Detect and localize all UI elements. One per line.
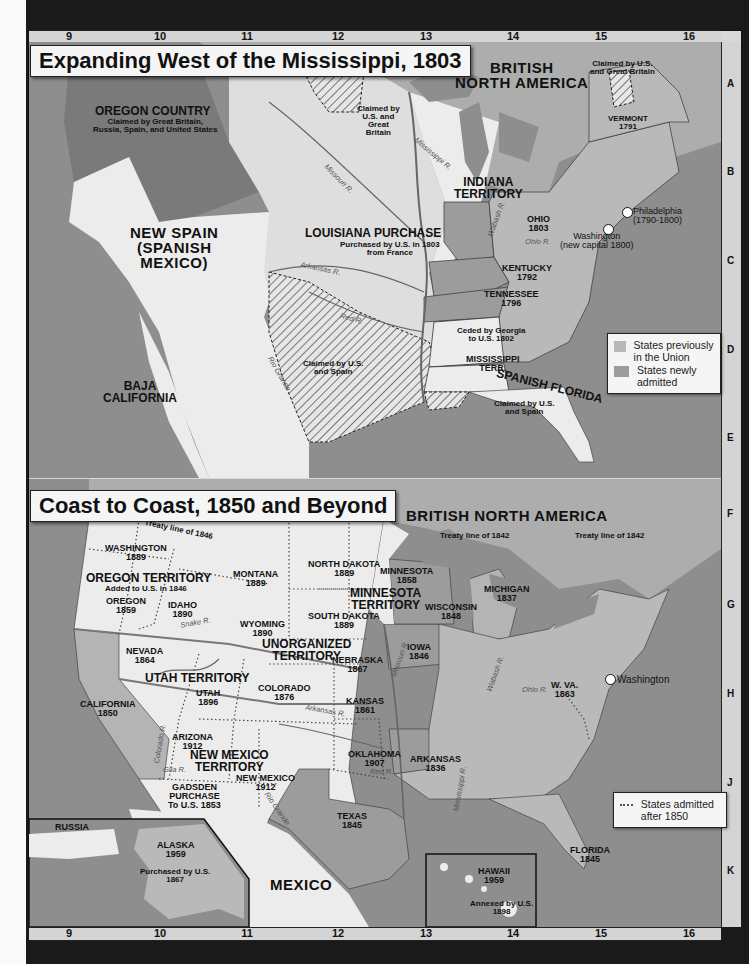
label-claim-us-gb-east: Claimed by U.S.and Great Britain xyxy=(590,60,655,76)
grid-row-label: D xyxy=(727,344,734,355)
label-alaska: ALASKA1959 xyxy=(157,841,195,859)
label-ohio: OHIO1803 xyxy=(527,215,550,233)
label-claim-us-gb-west: Claimed byU.S. andGreatBritain xyxy=(357,105,400,137)
label-washington-state: WASHINGTON1889 xyxy=(105,544,167,562)
label-hawaii: HAWAII1959 xyxy=(478,867,510,885)
label-idaho: IDAHO1890 xyxy=(168,601,197,619)
label-baja-california: BAJACALIFORNIA xyxy=(103,380,177,404)
page-margin xyxy=(0,0,26,964)
label-kansas: KANSAS1861 xyxy=(346,697,384,715)
swatch-new xyxy=(614,366,629,377)
label-oregon-territory-sub: Added to U.S. in 1846 xyxy=(105,585,187,593)
label-nevada: NEVADA1864 xyxy=(126,647,163,665)
grid-col-label: 10 xyxy=(154,30,166,42)
grid-row-label: C xyxy=(727,255,734,266)
label-claim-us-spain-tx: Claimed by U.S.and Spain xyxy=(303,360,363,376)
label-nebraska: NEBRASKA1867 xyxy=(332,656,383,674)
legend-item-after-1850: States admitted after 1850 xyxy=(620,798,720,822)
label-new-spain: NEW SPAIN(SPANISHMEXICO) xyxy=(130,225,218,270)
washington-marker-icon xyxy=(603,224,614,235)
grid-col-label: 13 xyxy=(420,927,432,939)
label-colorado: COLORADO1876 xyxy=(258,684,311,702)
label-oregon-territory: OREGON TERRITORY xyxy=(86,572,211,584)
label-ceded-by-georgia: Ceded by Georgiato U.S. 1802 xyxy=(457,327,525,343)
grid-col-label: 11 xyxy=(241,927,253,939)
label-vermont: VERMONT1791 xyxy=(608,115,648,131)
washington-dc-marker-icon xyxy=(605,674,616,685)
label-new-mexico: NEW MEXICO1912 xyxy=(236,774,295,792)
label-river: Gila R. xyxy=(163,766,186,774)
label-tennessee: TENNESSEE1796 xyxy=(484,290,539,308)
label-river: Ohio R. xyxy=(525,238,550,246)
grid-col-label: 13 xyxy=(420,30,432,42)
map-1850-title: Coast to Coast, 1850 and Beyond xyxy=(30,490,396,522)
map-1803-title: Expanding West of the Mississippi, 1803 xyxy=(30,45,471,77)
legend-1803: States previously in the Union States ne… xyxy=(607,333,721,394)
label-treaty-1842-a: Treaty line of 1842 xyxy=(440,532,509,540)
label-indiana-territory: INDIANATERRITORY xyxy=(454,176,523,200)
grid-col-label: 16 xyxy=(683,30,695,42)
grid-row-label: G xyxy=(727,599,735,610)
label-treaty-1842-b: Treaty line of 1842 xyxy=(575,532,644,540)
grid-col-label: 12 xyxy=(332,30,344,42)
label-kentucky: KENTUCKY1792 xyxy=(502,264,552,282)
grid-col-label: 14 xyxy=(507,30,519,42)
label-washington-1803: Washington(new capital 1800) xyxy=(560,232,634,250)
label-utah-territory: UTAH TERRITORY xyxy=(145,672,249,684)
label-claim-us-spain-fl: Claimed by U.S.and Spain xyxy=(494,400,554,416)
grid-row-label: K xyxy=(727,865,734,876)
label-north-dakota: NORTH DAKOTA1889 xyxy=(308,560,380,578)
label-minnesota-territory: MINNESOTATERRITORY xyxy=(350,587,421,611)
label-british-north-america: BRITISHNORTH AMERICA xyxy=(455,60,588,90)
label-california: CALIFORNIA1850 xyxy=(80,700,136,718)
label-oregon-country: OREGON COUNTRY xyxy=(95,105,211,117)
legend-item-previous: States previously in the Union xyxy=(614,339,714,363)
label-montana: MONTANA1889 xyxy=(233,570,278,588)
dotted-line-swatch xyxy=(620,804,633,806)
label-louisiana-sub: Purchased by U.S. in 1803from France xyxy=(340,241,440,257)
label-iowa: IOWA1846 xyxy=(407,643,431,661)
grid-row-label: H xyxy=(727,688,734,699)
grid-col-label: 15 xyxy=(595,30,607,42)
label-river: Red R. xyxy=(370,768,393,776)
label-south-dakota: SOUTH DAKOTA1889 xyxy=(308,612,380,630)
label-washington-dc: Washington xyxy=(617,675,669,685)
label-utah: UTAH1896 xyxy=(196,689,220,707)
label-mexico: MEXICO xyxy=(270,877,332,892)
label-oregon-claim: Claimed by Great Britain,Russia, Spain, … xyxy=(93,118,217,134)
label-hawaii-sub: Annexed by U.S.1898 xyxy=(470,900,533,916)
label-michigan: MICHIGAN1837 xyxy=(484,585,530,603)
grid-row-label: F xyxy=(727,508,733,519)
grid-row-label: E xyxy=(727,432,734,443)
label-alaska-sub: Purchased by U.S.1867 xyxy=(140,868,210,884)
grid-col-label: 10 xyxy=(154,927,166,939)
label-arkansas: ARKANSAS1836 xyxy=(410,755,461,773)
label-texas: TEXAS1845 xyxy=(337,812,367,830)
label-british-north-america-2: BRITISH NORTH AMERICA xyxy=(406,508,608,523)
column-grid-bottom: 9 10 11 12 13 14 15 16 xyxy=(29,927,721,941)
swatch-previous xyxy=(614,341,626,352)
label-florida: FLORIDA1845 xyxy=(570,846,610,864)
label-gadsden-purchase: GADSDENPURCHASETo U.S. 1853 xyxy=(168,783,221,810)
label-philadelphia: Philadelphia(1790-1800) xyxy=(633,207,682,225)
grid-col-label: 15 xyxy=(595,927,607,939)
philadelphia-marker-icon xyxy=(622,207,633,218)
grid-col-label: 11 xyxy=(241,30,253,42)
label-oregon: OREGON1859 xyxy=(106,597,146,615)
grid-row-label: B xyxy=(727,166,734,177)
label-louisiana-purchase: LOUISIANA PURCHASE xyxy=(305,227,441,239)
label-minnesota: MINNESOTA1858 xyxy=(380,567,433,585)
label-oklahoma: OKLAHOMA1907 xyxy=(348,750,401,768)
label-river: Ohio R. xyxy=(522,686,547,694)
label-wyoming: WYOMING1890 xyxy=(240,620,285,638)
grid-col-label: 9 xyxy=(66,927,72,939)
label-russia: RUSSIA xyxy=(55,823,89,832)
grid-row-label: J xyxy=(727,777,733,788)
label-new-mexico-territory: NEW MEXICOTERRITORY xyxy=(190,749,269,773)
label-wisconsin: WISCONSIN1848 xyxy=(425,603,477,621)
grid-row-label: A xyxy=(727,78,734,89)
grid-col-label: 9 xyxy=(66,30,72,42)
legend-1850: States admitted after 1850 xyxy=(613,792,727,828)
grid-col-label: 14 xyxy=(507,927,519,939)
grid-col-label: 16 xyxy=(683,927,695,939)
